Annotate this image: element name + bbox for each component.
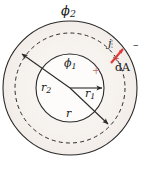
radius-r-label: r [66,108,71,119]
figure-canvas: ϕ2 ϕ1 r1 r2 r j dA – + + [0,0,149,171]
area-element-dA-label: dA [115,62,130,73]
phi2-symbol: ϕ [61,3,70,18]
radius-r1-label: r1 [85,88,95,101]
r2-subscript: 2 [46,86,51,95]
phi1-symbol: ϕ [64,57,72,70]
negative-charge-sign: – [133,39,139,50]
positive-charge-sign-accent: + [113,55,120,63]
potential-phi1-label: ϕ1 [64,58,77,71]
potential-phi2-label: ϕ2 [61,4,76,18]
phi2-subscript: 2 [70,8,76,19]
concentric-spheres-diagram [0,0,149,171]
r1-subscript: 1 [90,92,95,101]
phi1-subscript: 1 [72,62,77,71]
radius-r2-label: r2 [41,82,51,95]
current-density-j-label: j [108,38,111,49]
positive-charge-sign-inner: + [92,66,100,76]
